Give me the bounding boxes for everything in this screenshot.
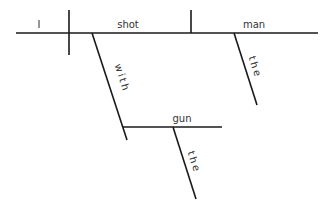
- diagram-canvas: I shot man gun the with the: [0, 0, 326, 220]
- word-verb: shot: [117, 19, 139, 30]
- word-preposition: with: [113, 62, 132, 93]
- sentence-diagram: I shot man gun the with the: [0, 0, 326, 220]
- word-prepositional-object-modifier: the: [186, 150, 203, 175]
- word-direct-object: man: [243, 19, 265, 30]
- word-subject: I: [38, 19, 41, 30]
- word-prepositional-object: gun: [172, 113, 191, 124]
- word-object-modifier: the: [247, 55, 264, 80]
